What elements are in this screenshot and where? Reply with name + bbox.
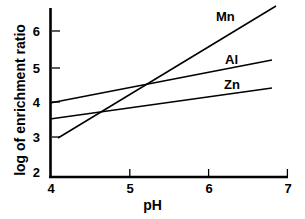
x-axis-title: pH bbox=[0, 198, 305, 212]
y-axis-title: log of enrichment ratio bbox=[13, 10, 27, 190]
series-line-zn bbox=[50, 88, 272, 119]
x-tick-label-5: 5 bbox=[121, 182, 139, 195]
x-tick-label-4: 4 bbox=[42, 182, 60, 195]
series-label-al: Al bbox=[225, 53, 238, 66]
x-tick-label-7: 7 bbox=[279, 182, 297, 195]
x-tick-label-6: 6 bbox=[200, 182, 218, 195]
series-line-mn bbox=[58, 6, 276, 138]
enrichment-ratio-chart: 6 5 4 3 2 4 5 6 7 pH log of enrichment r… bbox=[0, 0, 305, 219]
series-label-mn: Mn bbox=[216, 10, 235, 23]
series-label-zn: Zn bbox=[224, 78, 240, 91]
